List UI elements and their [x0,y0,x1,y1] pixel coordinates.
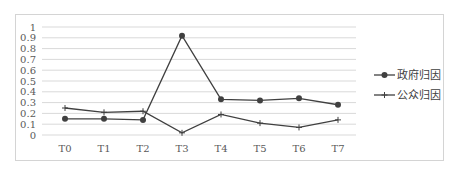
circle-marker-icon [101,116,107,122]
x-tick-label: T4 [214,143,227,154]
plus-marker-icon [296,124,302,130]
y-tick-label: 0.1 [20,119,36,130]
circle-marker-icon [218,96,224,102]
plus-marker-icon [257,120,263,126]
y-tick-label: 0.9 [20,32,36,43]
plus-marker-icon [62,105,68,111]
y-tick-label: 0.2 [20,108,36,119]
circle-marker-icon [179,33,185,39]
y-tick-label: 0.3 [20,97,36,108]
x-tick-label: T0 [58,143,71,154]
x-tick-label: T5 [253,143,266,154]
legend-item: 政府归因 [374,68,441,82]
y-tick-label: 1 [30,22,36,33]
y-tick-label: 0 [30,130,36,141]
x-tick-label: T6 [292,143,305,154]
x-tick-label: T3 [175,143,188,154]
circle-marker-icon [335,102,341,108]
plus-marker-icon [382,92,388,98]
circle-marker-icon [296,95,302,101]
y-tick-label: 0.4 [20,86,36,97]
legend-item: 公众归因 [374,88,441,102]
plus-marker-icon [218,111,224,117]
x-tick-label: T7 [331,143,344,154]
y-tick-label: 0.7 [20,54,36,65]
x-tick-label: T1 [97,143,110,154]
circle-marker-icon [257,97,263,103]
legend: 政府归因公众归因 [374,68,441,102]
y-tick-label: 0.6 [20,65,36,76]
legend-label: 公众归因 [397,88,441,102]
x-axis-ticks: T0T1T2T3T4T5T6T7 [58,143,344,154]
circle-marker-icon [62,116,68,122]
circle-marker-icon [140,117,146,123]
y-tick-label: 0.5 [20,76,36,87]
line-chart: 00.10.20.30.40.50.60.70.80.91 T0T1T2T3T4… [0,0,460,172]
y-axis-ticks: 00.10.20.30.40.50.60.70.80.91 [20,22,36,141]
y-tick-label: 0.8 [20,43,36,54]
legend-label: 政府归因 [397,68,441,82]
plus-marker-icon [101,109,107,115]
circle-marker-icon [382,72,388,78]
x-tick-label: T2 [136,143,149,154]
plus-marker-icon [335,117,341,123]
